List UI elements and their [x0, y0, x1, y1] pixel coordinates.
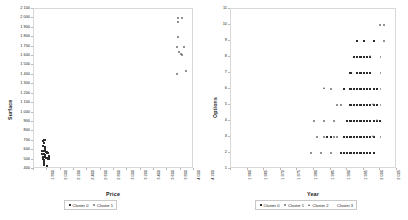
data-point: [333, 120, 335, 122]
data-point: [181, 54, 183, 56]
data-point: [369, 72, 371, 74]
data-point: [379, 56, 381, 58]
y-tick-label: 1 000: [13, 110, 30, 114]
legend-marker-square-icon: [259, 204, 262, 207]
marker-glyph: [69, 204, 71, 206]
data-point: [340, 104, 342, 106]
x-tick-mark: [346, 168, 347, 170]
legend-item[interactable]: Cluster 2: [308, 203, 329, 208]
data-point: [330, 152, 332, 154]
data-point: [369, 120, 371, 122]
x-tick-mark: [100, 168, 101, 170]
data-point: [349, 72, 351, 74]
data-point: [366, 56, 368, 58]
data-point: [359, 120, 361, 122]
data-point: [41, 153, 43, 155]
y-tick-label: 7: [210, 70, 227, 74]
legend-left[interactable]: Cluster 0Cluster 1: [64, 200, 117, 210]
x-tick-label: 3 000: [131, 170, 135, 186]
data-point: [176, 73, 178, 75]
data-point: [383, 56, 385, 58]
data-point: [323, 87, 325, 89]
data-point: [356, 120, 358, 122]
data-point: [353, 88, 355, 90]
y-tick-label: 9: [210, 38, 227, 42]
x-tick-mark: [86, 168, 87, 170]
data-point: [379, 24, 381, 26]
data-point: [185, 70, 187, 72]
legend-marker-circle-icon: [284, 204, 287, 207]
y-tick-label: 1: [210, 166, 227, 170]
data-point: [379, 72, 381, 74]
data-point: [369, 88, 371, 90]
y-tick-label: 700: [13, 138, 30, 142]
data-point: [366, 136, 368, 138]
panel-price-surface: Surface 4005006007008009001 0001 1001 20…: [0, 0, 204, 220]
y-tick-label: 1 800: [13, 34, 30, 38]
data-point: [349, 152, 351, 154]
data-point: [383, 120, 385, 122]
data-point: [379, 88, 381, 90]
y-tick-label: 1 700: [13, 44, 30, 48]
marker-glyph: [93, 204, 95, 206]
data-point: [356, 56, 358, 58]
x-tick-mark: [166, 168, 167, 170]
data-point: [363, 56, 365, 58]
plot-frame-right: [230, 8, 396, 168]
data-point: [376, 72, 378, 74]
data-point: [372, 103, 374, 105]
data-point: [183, 46, 185, 48]
data-point: [359, 72, 361, 74]
legend-label: Cluster 0: [264, 203, 280, 208]
legend-marker-plus-icon: [333, 204, 336, 207]
y-tick-label: 2 100: [13, 6, 30, 10]
data-point: [353, 152, 355, 154]
data-point: [376, 104, 378, 106]
data-point: [47, 152, 49, 154]
data-point: [366, 72, 368, 74]
data-point: [177, 36, 179, 38]
x-tick-label: 3 200: [144, 170, 148, 186]
panel-year-options: Options 1234567891011 1 9601 9651 9701 9…: [204, 0, 408, 220]
data-point: [376, 56, 378, 58]
data-point: [349, 88, 351, 90]
plot-area-right: [231, 9, 395, 167]
data-point: [47, 157, 49, 159]
legend-item[interactable]: Cluster 0: [68, 203, 89, 208]
data-point: [42, 157, 44, 159]
data-point: [346, 152, 348, 154]
data-point: [48, 155, 50, 157]
y-tick-label: 1 200: [13, 91, 30, 95]
data-point: [366, 152, 368, 154]
y-tick-label: 2 000: [13, 15, 30, 19]
data-point: [336, 136, 338, 138]
x-tick-mark: [33, 168, 34, 170]
data-point: [353, 56, 355, 58]
legend-right[interactable]: Cluster 0Cluster 1Cluster 2Cluster 3: [255, 200, 357, 210]
legend-item[interactable]: Cluster 1: [93, 203, 114, 208]
data-point: [359, 88, 361, 90]
data-point: [359, 56, 361, 58]
y-tick-label: 11: [210, 6, 227, 10]
data-point: [383, 88, 385, 90]
data-point: [176, 46, 178, 48]
data-point: [383, 24, 385, 26]
y-tick-label: 900: [13, 119, 30, 123]
data-point: [369, 152, 371, 154]
data-point: [330, 136, 332, 138]
y-tick-label: 8: [210, 54, 227, 58]
data-point: [313, 120, 315, 122]
data-point: [369, 136, 371, 138]
data-point: [43, 139, 45, 141]
y-tick-label: 1 500: [13, 62, 30, 66]
data-point: [323, 120, 325, 122]
legend-item[interactable]: Cluster 3: [333, 203, 354, 208]
data-point: [353, 104, 355, 106]
data-point: [379, 120, 381, 122]
data-point: [383, 136, 385, 138]
data-point: [343, 136, 345, 138]
legend-item[interactable]: Cluster 1: [284, 203, 305, 208]
legend-marker-triangle-icon: [308, 204, 311, 207]
legend-item[interactable]: Cluster 0: [259, 203, 280, 208]
y-tick-label: 1 300: [13, 81, 30, 85]
